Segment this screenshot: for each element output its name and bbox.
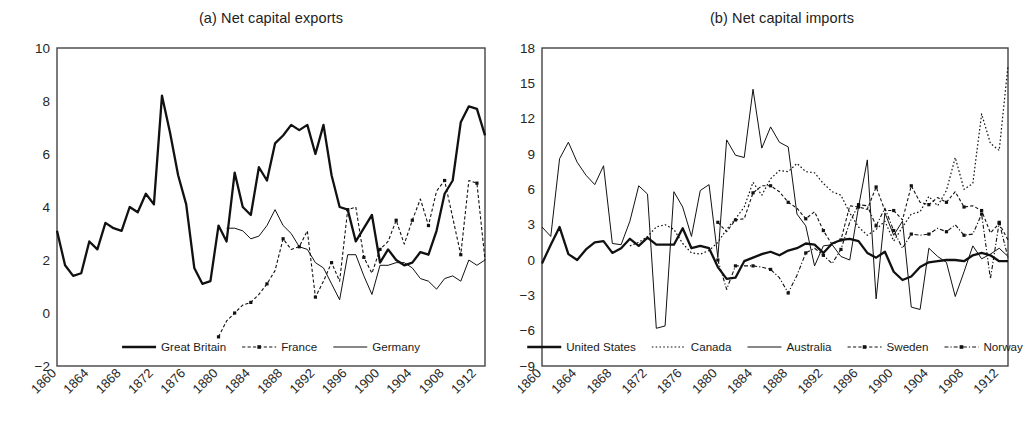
series-marker-sweden bbox=[734, 218, 737, 221]
series-marker-france bbox=[459, 253, 462, 256]
y-axis-tick-label: 6 bbox=[42, 147, 50, 162]
x-axis-tick-label: 1860 bbox=[28, 366, 59, 397]
series-marker-norway bbox=[716, 258, 719, 261]
plot-frame bbox=[57, 48, 485, 366]
series-marker-france bbox=[314, 296, 317, 299]
legend-label-sweden: Sweden bbox=[887, 340, 929, 353]
y-axis-tick-label: 18 bbox=[520, 41, 535, 56]
series-marker-france bbox=[249, 301, 252, 304]
x-axis-tick-label: 1912 bbox=[448, 366, 479, 397]
legend-label-france: France bbox=[281, 340, 317, 353]
y-axis-tick-label: 15 bbox=[520, 76, 535, 91]
series-marker-sweden bbox=[875, 185, 878, 188]
series-marker-sweden bbox=[927, 203, 930, 206]
series-marker-norway bbox=[769, 268, 772, 271]
series-marker-norway bbox=[945, 230, 948, 233]
series-marker-sweden bbox=[980, 209, 983, 212]
series-marker-norway bbox=[927, 232, 930, 235]
legend-marker-france bbox=[257, 345, 261, 349]
series-marker-norway bbox=[734, 264, 737, 267]
x-axis-tick-label: 1884 bbox=[222, 366, 253, 397]
series-marker-sweden bbox=[751, 191, 754, 194]
x-axis-tick-label: 1892 bbox=[794, 366, 825, 397]
legend-label-norway: Norway bbox=[983, 340, 1023, 353]
x-axis-tick-label: 1868 bbox=[93, 366, 124, 397]
y-axis-tick-label: 3 bbox=[527, 217, 535, 232]
series-marker-france bbox=[346, 208, 349, 211]
x-axis-tick-label: 1864 bbox=[548, 366, 579, 397]
x-axis-tick-label: 1908 bbox=[935, 366, 966, 397]
x-axis-tick-label: 1868 bbox=[583, 366, 614, 397]
legend-label-united-states: United States bbox=[566, 340, 636, 353]
legend-label-great-britain: Great Britain bbox=[161, 340, 226, 353]
x-axis-tick-label: 1900 bbox=[865, 366, 896, 397]
series-marker-sweden bbox=[822, 229, 825, 232]
legend-marker-norway bbox=[960, 345, 964, 349]
series-marker-france bbox=[443, 179, 446, 182]
x-axis-tick-label: 1864 bbox=[60, 366, 91, 397]
series-marker-norway bbox=[839, 248, 842, 251]
series-marker-france bbox=[282, 237, 285, 240]
legend-label-australia: Australia bbox=[786, 340, 832, 353]
series-marker-sweden bbox=[910, 184, 913, 187]
series-marker-sweden bbox=[769, 184, 772, 187]
series-marker-norway bbox=[998, 221, 1001, 224]
x-axis-tick-label: 1896 bbox=[830, 366, 861, 397]
series-marker-norway bbox=[787, 291, 790, 294]
x-axis-tick-label: 1888 bbox=[759, 366, 790, 397]
legend-label-germany: Germany bbox=[372, 340, 420, 353]
y-axis-tick-label: 6 bbox=[527, 182, 535, 197]
y-axis-tick-label: 2 bbox=[42, 253, 50, 268]
series-marker-norway bbox=[822, 254, 825, 257]
x-axis-tick-label: 1884 bbox=[724, 366, 755, 397]
x-axis-tick-label: 1888 bbox=[254, 366, 285, 397]
y-axis-tick-label: −3 bbox=[520, 288, 535, 303]
series-marker-france bbox=[362, 256, 365, 259]
series-marker-france bbox=[330, 261, 333, 264]
figure-container: (a) Net capital exports 1086420−21860186… bbox=[0, 0, 1036, 425]
series-marker-norway bbox=[980, 212, 983, 215]
x-axis-tick-label: 1904 bbox=[900, 366, 931, 397]
x-axis-tick-label: 1904 bbox=[383, 366, 414, 397]
x-axis-tick-label: 1900 bbox=[351, 366, 382, 397]
series-marker-sweden bbox=[962, 205, 965, 208]
series-marker-france bbox=[265, 282, 268, 285]
series-marker-norway bbox=[875, 224, 878, 227]
panel-b-plot: 1815129630−3−6−9186018641868187218761880… bbox=[518, 0, 1036, 425]
x-axis-tick-label: 1892 bbox=[286, 366, 317, 397]
series-line-canada bbox=[630, 66, 1008, 254]
series-line-france bbox=[219, 181, 485, 337]
series-marker-france bbox=[427, 224, 430, 227]
x-axis-tick-label: 1876 bbox=[654, 366, 685, 397]
y-axis-tick-label: −6 bbox=[520, 323, 535, 338]
series-line-australia bbox=[542, 89, 1008, 328]
x-axis-tick-label: 1872 bbox=[125, 366, 156, 397]
y-axis-tick-label: 4 bbox=[42, 200, 50, 215]
x-axis-tick-label: 1876 bbox=[157, 366, 188, 397]
panel-a-plot: 1086420−21860186418681872187618801884188… bbox=[0, 0, 518, 425]
legend-label-canada: Canada bbox=[691, 340, 732, 353]
series-marker-france bbox=[475, 182, 478, 185]
x-axis-tick-label: 1896 bbox=[319, 366, 350, 397]
plot-frame bbox=[542, 48, 1008, 366]
series-line-united-states bbox=[542, 227, 1008, 280]
series-marker-france bbox=[378, 248, 381, 251]
chart-panel-b: (b) Net capital imports 1815129630−3−6−9… bbox=[518, 0, 1036, 425]
series-line-great-britain bbox=[57, 96, 485, 284]
series-marker-france bbox=[233, 311, 236, 314]
series-marker-sweden bbox=[945, 201, 948, 204]
y-axis-tick-label: 10 bbox=[35, 41, 50, 56]
series-marker-norway bbox=[962, 234, 965, 237]
legend-marker-sweden bbox=[863, 345, 867, 349]
y-axis-tick-label: 9 bbox=[527, 147, 535, 162]
x-axis-tick-label: 1908 bbox=[416, 366, 447, 397]
x-axis-tick-label: 1880 bbox=[190, 366, 221, 397]
series-marker-france bbox=[411, 219, 414, 222]
series-marker-norway bbox=[892, 229, 895, 232]
series-marker-norway bbox=[910, 232, 913, 235]
series-marker-sweden bbox=[839, 238, 842, 241]
y-axis-tick-label: 0 bbox=[42, 306, 50, 321]
series-marker-sweden bbox=[787, 201, 790, 204]
series-marker-france bbox=[217, 335, 220, 338]
series-marker-sweden bbox=[892, 209, 895, 212]
